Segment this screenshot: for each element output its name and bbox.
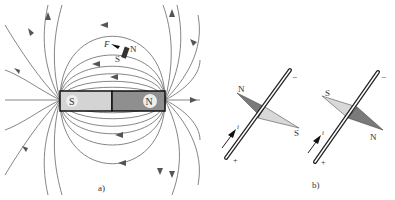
force-label: F: [103, 39, 110, 49]
magnet-north-half: [112, 91, 165, 111]
right-top-terminal: −: [381, 72, 386, 82]
compass-north-label: N: [130, 44, 137, 54]
left-top-terminal: −: [292, 72, 297, 82]
right-needle-north-label: N: [370, 132, 377, 142]
caption-b: b): [312, 180, 320, 190]
diagram-canvas: S N F N S a) N S i − + S N i − +: [0, 0, 395, 200]
left-needle-north-label: N: [238, 84, 245, 94]
wire-compass-left: N S i − +: [222, 70, 299, 165]
caption-a: a): [98, 183, 105, 193]
wire-compass-right: S N i − +: [308, 72, 386, 167]
left-current-label: i: [237, 123, 239, 131]
right-bottom-terminal: +: [321, 158, 326, 167]
right-needle-south-label: S: [325, 88, 330, 98]
left-bottom-terminal: +: [233, 156, 238, 165]
compass-south-label: S: [115, 54, 120, 64]
left-needle-south-label: S: [294, 128, 299, 138]
bar-magnet: S N: [60, 91, 165, 111]
magnet-south-label: S: [69, 96, 75, 107]
compass-needle: F N S: [103, 39, 137, 64]
right-current-label: i: [322, 129, 324, 137]
magnet-north-label: N: [146, 96, 153, 107]
